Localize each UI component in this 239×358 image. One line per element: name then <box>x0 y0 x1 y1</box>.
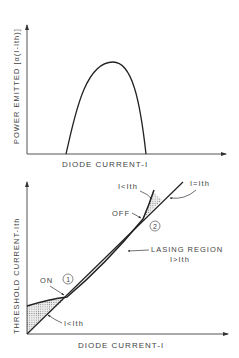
threshold-curve <box>27 190 154 306</box>
diagram-canvas: POWER EMITTED [α(I-Ith)] DIODE CURRENT-I… <box>0 0 239 358</box>
equality-line <box>27 182 183 334</box>
equality-label: I=Ith <box>190 179 210 188</box>
lasing-region-label: LASING REGION <box>151 245 223 254</box>
on-label: ON <box>40 276 53 285</box>
off-pointer <box>132 213 141 218</box>
below-threshold-label-low: I<Ith <box>64 319 84 328</box>
marker-2: 2 <box>153 223 157 230</box>
power-chart: POWER EMITTED [α(I-Ith)] DIODE CURRENT-I <box>12 25 226 169</box>
below-threshold-label-high: I<Ith <box>118 182 138 191</box>
threshold-chart: ON 1 OFF 2 LASING REGION I>Ith I<Ith I<I… <box>12 179 228 350</box>
top-y-axis-label: POWER EMITTED [α(I-Ith)] <box>12 28 21 144</box>
below-low-pointer <box>48 315 62 323</box>
top-x-axis-label: DIODE CURRENT-I <box>62 160 148 169</box>
off-label: OFF <box>112 209 130 218</box>
below-high-pointer <box>140 191 152 199</box>
lasing-pointer <box>128 250 149 251</box>
marker-1: 1 <box>66 276 70 283</box>
on-pointer <box>50 286 64 295</box>
lasing-region-sublabel: I>Ith <box>170 255 190 264</box>
bottom-x-axis-label: DIODE CURRENT-I <box>78 341 164 350</box>
power-curve <box>66 62 146 154</box>
bottom-y-axis-label: THRESHOLD CURRENT-Ith <box>12 218 21 334</box>
